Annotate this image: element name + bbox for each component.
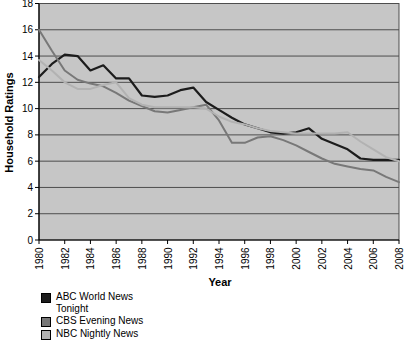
- xtick-label-1992: 1992: [188, 244, 199, 274]
- legend-item-cbs: CBS Evening News: [41, 315, 156, 327]
- xtick-label-2002: 2002: [316, 244, 327, 274]
- ytick-label-0: 0: [0, 235, 33, 246]
- xtick-label-1980: 1980: [34, 244, 45, 274]
- xtick-label-1996: 1996: [239, 244, 250, 274]
- evening-news-ratings-chart: 024681012141618 198019821984198619881990…: [0, 0, 405, 346]
- legend: ABC World News Tonight CBS Evening News …: [41, 291, 156, 341]
- xtick-label-2004: 2004: [342, 244, 353, 274]
- ytick-label-16: 16: [0, 24, 33, 35]
- xtick-label-1988: 1988: [136, 244, 147, 274]
- xtick-label-1982: 1982: [59, 244, 70, 274]
- ytick-label-2: 2: [0, 208, 33, 219]
- legend-label-abc: ABC World News Tonight: [56, 291, 156, 314]
- xtick-label-1994: 1994: [214, 244, 225, 274]
- legend-swatch-nbc: [41, 330, 51, 340]
- legend-swatch-abc: [41, 293, 51, 303]
- xtick-label-1984: 1984: [85, 244, 96, 274]
- legend-item-nbc: NBC Nightly News: [41, 328, 156, 340]
- legend-item-abc: ABC World News Tonight: [41, 291, 156, 314]
- legend-label-cbs: CBS Evening News: [56, 315, 143, 327]
- ytick-label-4: 4: [0, 182, 33, 193]
- y-axis-title: Household Ratings: [3, 63, 16, 183]
- xtick-label-2006: 2006: [368, 244, 379, 274]
- xtick-label-1998: 1998: [265, 244, 276, 274]
- x-axis-title: Year: [199, 276, 241, 288]
- xtick-label-1986: 1986: [111, 244, 122, 274]
- ytick-label-14: 14: [0, 51, 33, 62]
- ytick-label-18: 18: [0, 0, 33, 9]
- xtick-label-1990: 1990: [162, 244, 173, 274]
- legend-swatch-cbs: [41, 317, 51, 327]
- legend-label-nbc: NBC Nightly News: [56, 328, 138, 340]
- xtick-label-2000: 2000: [291, 244, 302, 274]
- xtick-label-2008: 2008: [394, 244, 405, 274]
